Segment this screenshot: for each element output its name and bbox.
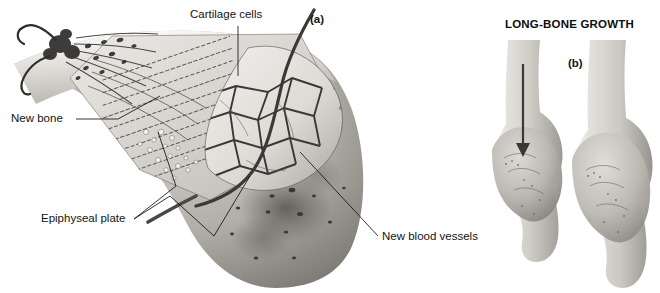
panel-b-illustration	[0, 0, 660, 293]
label-cartilage-cells: Cartilage cells	[190, 8, 262, 20]
label-new-bone: New bone	[11, 112, 63, 124]
figure-canvas: LONG-BONE GROWTH Cartilage cells New bon…	[0, 0, 660, 293]
label-epiphyseal-plate: Epiphyseal plate	[41, 212, 125, 224]
bone-young	[492, 40, 563, 262]
panel-b-title: LONG-BONE GROWTH	[505, 18, 634, 30]
bone-older	[572, 40, 653, 288]
panel-a-tag: (a)	[310, 13, 324, 25]
label-new-blood-vessels: New blood vessels	[382, 230, 478, 242]
panel-b-tag: (b)	[568, 57, 583, 69]
